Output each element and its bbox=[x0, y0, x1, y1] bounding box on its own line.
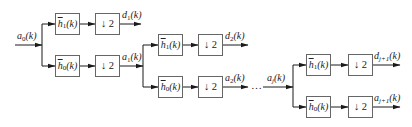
output-label-aj1: aj+1(k) bbox=[374, 93, 400, 103]
output-label-d1: d1(k) bbox=[122, 10, 142, 20]
downsample-box-high-stage2: ↓ 2 bbox=[198, 34, 223, 56]
high-pass-filter-box-stage1: h1(k) bbox=[55, 13, 80, 35]
low-pass-filter-box-stage1: h0(k) bbox=[55, 55, 80, 77]
input-label-aj: aj(k) bbox=[267, 73, 285, 83]
output-label-a2: a2(k) bbox=[225, 73, 245, 83]
downsample-box-low-stage1: ↓ 2 bbox=[95, 55, 120, 77]
high-pass-filter-box-stage2: h1(k) bbox=[158, 34, 183, 56]
low-pass-filter-box-stage-j: h0(k) bbox=[306, 96, 331, 118]
output-label-dj1: dj+1(k) bbox=[374, 51, 400, 61]
downsample-box-low-stage2: ↓ 2 bbox=[198, 76, 223, 98]
downsample-box-low-stage-j: ↓ 2 bbox=[348, 96, 373, 118]
low-pass-filter-box-stage2: h0(k) bbox=[158, 76, 183, 98]
output-label-a1: a1(k) bbox=[122, 52, 142, 62]
downsample-box-high-stage-j: ↓ 2 bbox=[348, 54, 373, 76]
input-label-a0: a0(k) bbox=[17, 31, 37, 41]
filter-bank-diagram: a0(k) h1(k) ↓ 2 h0(k) ↓ 2 d1(k) a1(k) h1… bbox=[0, 0, 412, 127]
ellipsis: … bbox=[251, 79, 263, 91]
high-pass-filter-box-stage-j: h1(k) bbox=[306, 54, 331, 76]
output-label-d2: d2(k) bbox=[225, 31, 245, 41]
downsample-box-high-stage1: ↓ 2 bbox=[95, 13, 120, 35]
